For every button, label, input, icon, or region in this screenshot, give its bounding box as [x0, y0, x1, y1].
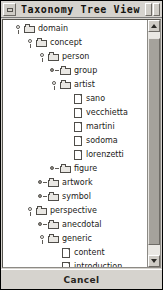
node-leaf-spacer — [61, 148, 72, 162]
node-leaf-spacer — [61, 134, 72, 148]
document-icon — [60, 261, 72, 267]
tree-node[interactable]: domain — [3, 22, 147, 36]
node-expand-handle-open-icon[interactable] — [13, 22, 24, 36]
document-icon — [72, 93, 84, 105]
tree-node[interactable]: generic — [3, 232, 147, 246]
tree-scroll-pane: domainconceptpersongroupartistsanovecchi… — [2, 19, 161, 268]
folder-icon — [60, 79, 72, 91]
folder-icon — [48, 219, 60, 231]
document-icon — [72, 107, 84, 119]
folder-icon — [36, 205, 48, 217]
node-leaf-spacer — [61, 120, 72, 134]
tree-node-label: artwork — [62, 176, 93, 190]
tree-node-label: artist — [74, 78, 95, 92]
folder-icon — [48, 51, 60, 63]
tree-node-label: sano — [86, 92, 105, 106]
window-controls — [145, 3, 160, 16]
scrollbar-thumb[interactable] — [148, 38, 160, 245]
vertical-scrollbar[interactable] — [147, 20, 160, 267]
cancel-button[interactable]: Cancel — [63, 275, 99, 285]
node-expand-handle-open-icon[interactable] — [37, 50, 48, 64]
tree-node-label: concept — [50, 36, 82, 50]
folder-icon — [60, 163, 72, 175]
node-expand-handle-open-icon[interactable] — [25, 36, 36, 50]
node-expand-handle-open-icon[interactable] — [37, 232, 48, 246]
node-expand-handle-open-icon[interactable] — [49, 78, 60, 92]
scroll-up-button[interactable] — [148, 20, 160, 32]
folder-icon — [48, 177, 60, 189]
tree-node-label: symbol — [62, 190, 91, 204]
scrollbar-track-bottom[interactable] — [148, 245, 160, 255]
node-leaf-spacer — [49, 260, 60, 267]
document-icon — [60, 247, 72, 259]
tree-node[interactable]: artwork — [3, 176, 147, 190]
tree-node-label: sodoma — [86, 134, 118, 148]
tree-node-label: domain — [38, 22, 68, 36]
minimize-icon[interactable] — [145, 3, 152, 16]
chevron-down-icon — [151, 259, 157, 263]
document-icon — [72, 121, 84, 133]
tree-node[interactable]: martini — [3, 120, 147, 134]
tree-node[interactable]: content — [3, 246, 147, 260]
tree-node[interactable]: symbol — [3, 190, 147, 204]
maximize-icon[interactable] — [153, 3, 160, 16]
taxonomy-tree[interactable]: domainconceptpersongroupartistsanovecchi… — [3, 20, 147, 267]
window-title: Taxonomy Tree View — [16, 2, 145, 17]
document-icon — [72, 149, 84, 161]
tree-node[interactable]: artist — [3, 78, 147, 92]
tree-node-label: introduction — [74, 260, 122, 267]
tree-node[interactable]: perspective — [3, 204, 147, 218]
window-titlebar: Taxonomy Tree View — [1, 1, 162, 18]
scroll-down-button[interactable] — [148, 255, 160, 267]
folder-icon — [36, 37, 48, 49]
scrollbar-track[interactable] — [148, 32, 160, 255]
tree-node[interactable]: concept — [3, 36, 147, 50]
tree-node[interactable]: sano — [3, 92, 147, 106]
tree-node-label: group — [74, 64, 97, 78]
tree-node[interactable]: lorenzetti — [3, 148, 147, 162]
node-leaf-spacer — [49, 246, 60, 260]
folder-icon — [24, 23, 36, 35]
tree-node[interactable]: sodoma — [3, 134, 147, 148]
tree-node-label: generic — [62, 232, 92, 246]
tree-node-label: perspective — [50, 204, 97, 218]
folder-icon — [48, 191, 60, 203]
folder-icon — [48, 233, 60, 245]
tree-node-label: vecchietta — [86, 106, 128, 120]
tree-node[interactable]: introduction — [3, 260, 147, 267]
node-expand-handle-closed-icon[interactable] — [37, 190, 48, 204]
folder-icon — [60, 65, 72, 77]
node-leaf-spacer — [61, 92, 72, 106]
document-icon — [72, 135, 84, 147]
node-leaf-spacer — [61, 106, 72, 120]
tree-node[interactable]: anecdotal — [3, 218, 147, 232]
node-expand-handle-closed-icon[interactable] — [49, 162, 60, 176]
window-menu-icon[interactable] — [3, 3, 16, 16]
tree-node[interactable]: vecchietta — [3, 106, 147, 120]
tree-node-label: figure — [74, 162, 97, 176]
node-expand-handle-closed-icon[interactable] — [37, 176, 48, 190]
tree-node-label: anecdotal — [62, 218, 102, 232]
node-expand-handle-closed-icon[interactable] — [49, 64, 60, 78]
tree-node-label: martini — [86, 120, 115, 134]
tree-node[interactable]: figure — [3, 162, 147, 176]
tree-node-label: lorenzetti — [86, 148, 124, 162]
tree-node-label: person — [62, 50, 89, 64]
tree-node-label: content — [74, 246, 105, 260]
tree-node[interactable]: person — [3, 50, 147, 64]
taxonomy-tree-window: Taxonomy Tree View domainconceptpersongr… — [0, 0, 163, 290]
node-expand-handle-closed-icon[interactable] — [37, 218, 48, 232]
dialog-footer: Cancel — [1, 269, 162, 289]
chevron-up-icon — [151, 24, 157, 28]
node-expand-handle-open-icon[interactable] — [25, 204, 36, 218]
tree-node[interactable]: group — [3, 64, 147, 78]
